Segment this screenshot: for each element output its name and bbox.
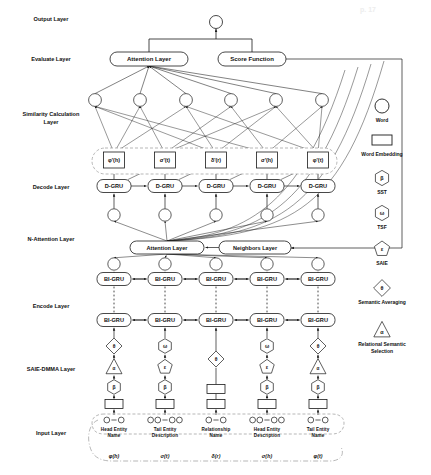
word-node [148,417,154,423]
word-embedding-box [258,400,276,409]
encode-output-node [261,258,273,270]
encode-gru-label: BI-GRU [206,276,226,282]
word-node [220,417,226,423]
decode-token-label: δ'(r) [211,157,221,163]
evaluate-attention-label: Attention Layer [127,56,172,62]
decode-gru-label: D-GRU [309,183,327,189]
similarity-node [134,94,147,107]
similarity-node [270,94,283,107]
encode-gru-label: BI-GRU [308,276,328,282]
encode-gru-label: BI-GRU [155,276,175,282]
encode-gru-label: BI-GRU [308,317,328,323]
legend-label-semantic-averaging: Semantic Averaging [339,299,425,306]
decode-token-label: σ'(t) [160,157,171,163]
word-embedding-box [156,400,174,409]
word-node [279,417,285,423]
row-label-input-layer: Input Layer [8,430,94,438]
legend-label-saie: SAIE [339,260,425,267]
word-node [155,417,161,423]
row-label-decode-layer: Decode Layer [8,184,94,192]
decode-gru-label: D-GRU [105,183,123,189]
legend-label-word: Word [339,117,425,124]
row-label-similarity-layer: Similarity CalculationLayer [8,111,94,127]
word-node [169,417,175,423]
word-node [177,417,183,423]
similarity-node [316,94,329,107]
n-attention-label: Attention Layer [146,245,188,251]
bleed-artifact: p. 17 [360,6,376,13]
legend-label-relational-semantic-selection: Relational SemanticSelection [339,341,425,355]
score-function-label: Score Function [230,56,274,62]
encode-gru-label: BI-GRU [206,317,226,323]
semantic-averaging-symbol: θ [113,343,116,349]
neighbors-layer-label: Neighbors Layer [233,245,278,251]
semantic-averaging-symbol: θ [317,343,320,349]
word-node [308,417,314,423]
decode-gru-label: D-GRU [156,183,174,189]
encode-output-node [159,258,171,270]
relational-semantic-selection-symbol: α [317,366,320,371]
legend-word-embedding-icon [372,135,392,145]
similarity-node [89,94,102,107]
encode-output-node [210,258,222,270]
sst-symbol: β [316,384,319,390]
input-formula-col1: σ(t) [143,453,187,460]
encode-gru-label: BI-GRU [257,317,277,323]
input-title-col3: Head EntityDescription [239,427,295,439]
similarity-node [180,94,193,107]
row-label-encode-layer: Encode Layer [8,303,94,311]
decode-token-label: σ'(h) [261,157,273,163]
legend-semantic-averaging-symbol: θ [381,285,384,291]
sst-symbol: β [163,384,166,390]
word-node [250,417,256,423]
encode-gru-label: BI-GRU [104,276,124,282]
sst-symbol: β [112,384,115,390]
row-label-output-layer: Output Layer [8,16,94,24]
similarity-node [225,94,238,107]
row-label-saie-dmma-layer: SAIE-DMMA Layer [8,366,94,374]
input-formula-col0: φ(h) [92,453,136,460]
input-formula-col3: σ(h) [245,453,289,460]
decode-input-node [312,209,324,221]
semantic-averaging-symbol: θ [215,356,218,362]
encode-output-node [108,258,120,270]
decode-token-label: φ'(t) [313,157,324,163]
legend-tsf-symbol: ω [380,210,385,216]
word-node [322,417,328,423]
encode-gru-label: BI-GRU [104,317,124,323]
word-embedding-box [105,400,123,409]
input-formula-col4: φ(t) [296,453,340,460]
word-node [271,417,277,423]
decode-input-node [108,209,120,221]
input-title-col2: RelationshipName [188,427,244,439]
legend-saie-symbol: ε [381,246,384,252]
relational-semantic-selection-symbol: α [113,366,116,371]
legend-label-sst: SST [339,189,425,196]
encode-output-node [312,258,324,270]
decode-gru-label: D-GRU [207,183,225,189]
word-node [206,417,212,423]
word-embedding-box [207,385,225,394]
encode-gru-label: BI-GRU [257,276,277,282]
word-node [104,417,110,423]
word-embedding-box [309,400,327,409]
legend-label-tsf: TSF [339,224,425,231]
legend-word-icon [375,99,389,113]
row-label-nattention-layer: N-Attention Layer [8,236,94,244]
row-label-evaluate-layer: Evaluate Layer [8,56,94,64]
word-node [257,417,263,423]
encode-gru-label: BI-GRU [155,317,175,323]
decode-gru-label: D-GRU [258,183,276,189]
legend-label-word-embedding: Word Embedding [339,151,425,158]
input-formula-col2: δ(r) [194,453,238,460]
input-title-col4: Tail EntityName [290,427,346,439]
decode-input-node [261,209,273,221]
figure-canvas: Attention LayerScore Functionφ'(h)σ'(t)δ… [0,0,431,475]
decode-token-label: φ'(h) [108,157,120,163]
decode-input-node [210,209,222,221]
word-node [118,417,124,423]
input-title-col0: Head EntityName [86,427,142,439]
sst-symbol: β [265,384,268,390]
output-sum-node [210,16,223,29]
decode-input-node [159,209,171,221]
